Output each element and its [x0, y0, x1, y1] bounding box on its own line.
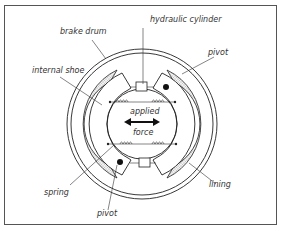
label-force: force	[133, 128, 153, 137]
leader-pivot-top	[182, 57, 214, 74]
hydraulic-cylinder-bottom	[130, 158, 156, 167]
spring-bottom	[107, 142, 177, 145]
hydraulic-cylinder-top	[130, 28, 154, 91]
label-applied: applied	[130, 107, 160, 116]
pivot-bottom-dot	[117, 159, 123, 165]
spring-top	[109, 100, 176, 103]
label-lining: lining	[209, 180, 231, 189]
label-spring: spring	[44, 188, 69, 197]
label-internal-shoe: internal shoe	[32, 66, 85, 75]
label-pivot-top: pivot	[207, 48, 229, 57]
diagram-container: hydraulic cylinder brake drum pivot inte…	[0, 0, 282, 231]
inner-circle	[107, 89, 177, 159]
label-hydraulic-cylinder: hydraulic cylinder	[150, 15, 222, 24]
brake-diagram: hydraulic cylinder brake drum pivot inte…	[0, 0, 282, 231]
leader-brake-drum	[92, 40, 106, 59]
label-brake-drum: brake drum	[60, 27, 107, 36]
pivot-top-dot	[163, 84, 169, 90]
label-pivot-bottom: pivot	[96, 209, 118, 218]
force-arrow	[124, 118, 160, 126]
